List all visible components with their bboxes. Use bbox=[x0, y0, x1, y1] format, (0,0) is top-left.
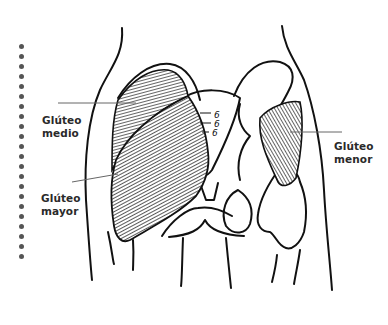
label-gluteo-mayor-line2: mayor bbox=[41, 205, 81, 218]
pelvis-illustration: 666 bbox=[0, 0, 388, 325]
label-gluteo-mayor: Glúteo mayor bbox=[41, 192, 81, 218]
label-gluteo-menor-line1: Glúteo bbox=[334, 140, 374, 153]
leader-line-gluteo-mayor bbox=[72, 174, 118, 182]
gluteus-minimus-muscle bbox=[260, 102, 302, 186]
label-gluteo-medio: Glúteo medio bbox=[42, 114, 82, 140]
obturator-foramen bbox=[224, 190, 252, 233]
label-gluteo-medio-line1: Glúteo bbox=[42, 114, 82, 127]
svg-text:6: 6 bbox=[212, 128, 218, 138]
label-gluteo-menor: Glúteo menor bbox=[334, 140, 374, 166]
label-gluteo-menor-line2: menor bbox=[334, 153, 374, 166]
label-gluteo-medio-line2: medio bbox=[42, 127, 82, 140]
label-gluteo-mayor-line1: Glúteo bbox=[41, 192, 81, 205]
